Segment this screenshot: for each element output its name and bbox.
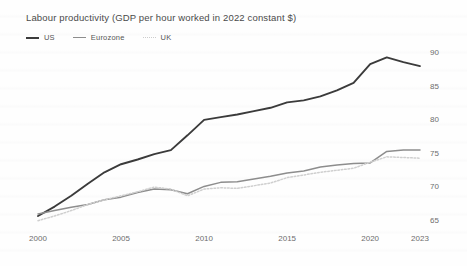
x-axis-tick-2015: 2015 (278, 234, 296, 243)
series-line-us (38, 57, 420, 216)
series-line-eurozone (38, 150, 420, 214)
plot-area (0, 0, 467, 266)
y-axis-tick-65: 65 (430, 216, 439, 225)
y-axis-tick-85: 85 (430, 81, 439, 90)
x-axis-tick-2020: 2020 (361, 234, 379, 243)
y-axis-tick-90: 90 (430, 48, 439, 57)
chart-container: Labour productivity (GDP per hour worked… (0, 0, 467, 266)
x-axis-tick-2005: 2005 (112, 234, 130, 243)
y-axis-tick-80: 80 (430, 115, 439, 124)
y-axis-tick-75: 75 (430, 148, 439, 157)
x-axis-tick-2000: 2000 (29, 234, 47, 243)
x-axis-tick-2010: 2010 (195, 234, 213, 243)
x-axis-tick-2023: 2023 (411, 234, 429, 243)
series-line-uk (38, 157, 420, 221)
y-axis-tick-70: 70 (430, 182, 439, 191)
